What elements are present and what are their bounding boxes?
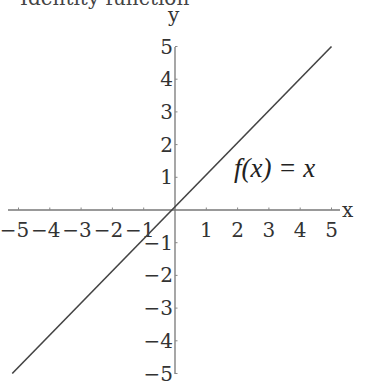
y-axis-label: y [167,3,180,27]
y-tick-label: 4 [160,67,173,91]
chart-plot: −5−4−3−2−112345 54321−1−2−3−4−5 x y f(x)… [0,0,366,387]
x-tick-label: 4 [294,218,307,242]
x-tick-label: −4 [31,218,60,242]
x-tick-label: 5 [325,218,338,242]
y-tick-label: −4 [144,329,173,353]
y-tick-label: −5 [144,362,173,386]
y-tick-label: 1 [160,165,173,189]
x-tick-label: −2 [94,218,123,242]
y-tick-label: −3 [144,296,173,320]
x-tick-label: 2 [231,218,244,242]
x-tick-label: 1 [200,218,213,242]
y-tick-label: 3 [160,100,173,124]
x-tick-label: 3 [263,218,276,242]
y-tick-label: 5 [160,35,173,59]
y-tick-label: 2 [160,133,173,157]
x-tick-label: −3 [62,218,91,242]
function-annotation: f(x) = x [234,153,315,183]
x-axis-label: x [342,198,354,222]
x-tick-label: −5 [0,218,29,242]
y-tick-label: −2 [144,263,173,287]
